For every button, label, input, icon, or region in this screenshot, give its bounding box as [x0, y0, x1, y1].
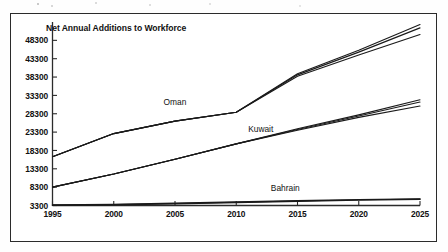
chart-title: Net Annual Additions to Workforce [46, 23, 187, 33]
y-axis-tick-label: 43300 [25, 54, 48, 64]
x-axis-tick-label: 2010 [227, 209, 246, 219]
series-line-kuwait-variant-2 [53, 102, 421, 187]
series-group [53, 25, 421, 206]
x-axis-tick-group: 1995200020052010201520202025 [43, 201, 429, 219]
x-axis-tick-label: 2005 [166, 209, 185, 219]
series-label-oman: Oman [164, 97, 187, 107]
y-axis-tick-label: 28300 [25, 109, 48, 119]
x-axis-tick-label: 1995 [43, 209, 62, 219]
chart-canvas: Net Annual Additions to Workforce 330083… [0, 0, 448, 252]
screenshot-page: Net Annual Additions to Workforce 330083… [0, 0, 448, 252]
line-chart: Net Annual Additions to Workforce 330083… [0, 0, 448, 252]
x-axis-tick-label: 2000 [105, 209, 124, 219]
series-label-bahrain: Bahrain [271, 183, 300, 193]
y-axis-tick-label: 38300 [25, 72, 48, 82]
x-axis-tick-label: 2025 [411, 209, 430, 219]
series-label-kuwait: Kuwait [248, 124, 274, 134]
series-line-kuwait-variant-3 [53, 106, 421, 187]
y-axis-tick-label: 23300 [25, 127, 48, 137]
y-axis-tick-label: 48300 [25, 35, 48, 45]
series-line-oman [53, 25, 421, 157]
y-axis-tick-label: 33300 [25, 91, 48, 101]
x-axis-tick-label: 2015 [288, 209, 307, 219]
y-axis-tick-label: 18300 [25, 146, 48, 156]
x-axis-tick-label: 2020 [350, 209, 369, 219]
y-axis-tick-label: 13300 [25, 164, 48, 174]
y-axis-tick-label: 8300 [30, 182, 49, 192]
series-line-oman-variant-3 [53, 34, 421, 156]
